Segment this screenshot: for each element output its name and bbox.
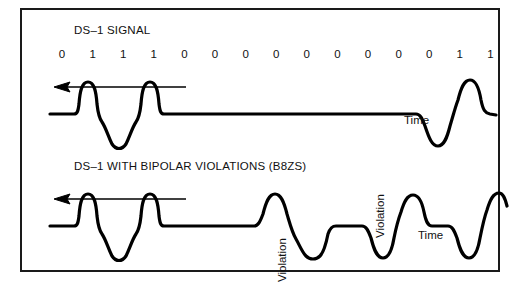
violation-label-1: Violation [276,238,288,282]
bit-stream-row: 011100000000011 [52,48,514,66]
time-arrow-top [54,82,186,92]
diagram-frame: DS–1 SIGNAL 011100000000011 Time DS–1 WI… [20,8,500,272]
bit-label: 0 [300,48,314,60]
bit-label: 1 [483,48,497,60]
time-label-top: Time [404,114,429,126]
bit-label: 1 [147,48,161,60]
bit-label: 0 [361,48,375,60]
bit-label: 0 [392,48,406,60]
bit-label: 0 [239,48,253,60]
bit-label: 1 [86,48,100,60]
bit-label: 0 [55,48,69,60]
ds1-signal-waveform [44,66,510,152]
bit-label: 0 [208,48,222,60]
bit-label: 0 [269,48,283,60]
time-arrow-bottom [54,194,186,204]
violation-label-2: Violation [374,194,386,238]
figure-canvas: DS–1 SIGNAL 011100000000011 Time DS–1 WI… [0,0,520,283]
time-label-bottom: Time [418,229,443,241]
bit-label: 1 [453,48,467,60]
bit-label: 1 [116,48,130,60]
bit-label: 0 [177,48,191,60]
panel-title-top: DS–1 SIGNAL [74,24,150,36]
panel-title-bottom: DS–1 WITH BIPOLAR VIOLATIONS (B8ZS) [74,160,306,172]
bit-label: 0 [330,48,344,60]
bit-label: 0 [422,48,436,60]
